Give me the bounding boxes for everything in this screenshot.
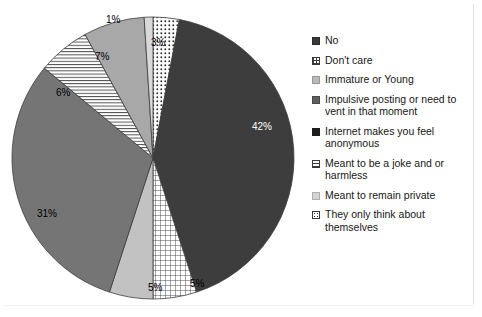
pie-slice-value-label: 3% — [151, 38, 165, 48]
pie-slice-value-label: 5% — [148, 283, 162, 293]
legend-item-label: Meant to remain private — [325, 189, 435, 202]
legend-swatch-impulsive-posting — [312, 96, 320, 104]
legend-swatch-no — [312, 37, 320, 45]
legend-item-label: Impulsive posting or need to vent in tha… — [325, 93, 478, 118]
legend-item[interactable]: Don't care — [312, 54, 478, 67]
legend-swatch-remain-private — [312, 192, 320, 200]
pie-slice-value-label: 31% — [37, 209, 57, 219]
legend-item[interactable]: No — [312, 34, 478, 47]
legend-swatch-immature-or-young — [312, 76, 320, 84]
legend-swatch-dont-care — [312, 57, 320, 65]
pie-slice-value-label: 42% — [252, 122, 272, 132]
pie-slice-group — [12, 17, 294, 299]
legend-swatch-joke-or-harmless — [312, 160, 320, 168]
pie-slice-value-label: 5% — [190, 279, 204, 289]
legend-item[interactable]: Impulsive posting or need to vent in tha… — [312, 93, 478, 118]
legend-item-label: Meant to be a joke and or harmless — [325, 157, 478, 182]
pie-svg — [0, 0, 300, 317]
pie-plot-area: 3%42%5%5%31%6%7%1% — [0, 0, 300, 317]
legend-item[interactable]: Internet makes you feel anonymous — [312, 125, 478, 150]
legend-item[interactable]: They only think about themselves — [312, 208, 478, 233]
legend-swatch-think-about-themselves — [312, 211, 320, 219]
legend-swatch-internet-anonymous — [312, 128, 320, 136]
legend-item[interactable]: Immature or Young — [312, 73, 478, 86]
chart-legend: NoDon't careImmature or YoungImpulsive p… — [312, 34, 478, 240]
legend-item[interactable]: Meant to be a joke and or harmless — [312, 157, 478, 182]
pie-slice-value-label: 1% — [106, 15, 120, 25]
legend-item-label: Immature or Young — [325, 73, 414, 86]
pie-chart-figure: 3%42%5%5%31%6%7%1% NoDon't careImmature … — [0, 0, 482, 317]
pie-slice-value-label: 7% — [95, 52, 109, 62]
legend-item-label: Don't care — [325, 54, 373, 67]
pie-slice-value-label: 6% — [56, 88, 70, 98]
legend-item-label: Internet makes you feel anonymous — [325, 125, 478, 150]
legend-item-label: They only think about themselves — [325, 208, 478, 233]
legend-item-label: No — [325, 34, 338, 47]
legend-item[interactable]: Meant to remain private — [312, 189, 478, 202]
